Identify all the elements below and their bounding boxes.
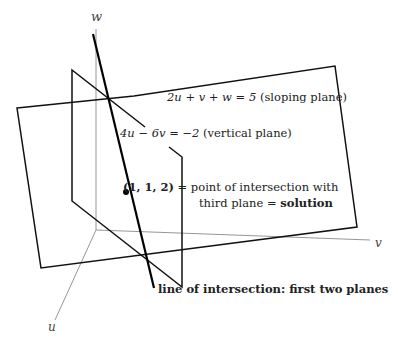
vertical-plane-description: (vertical plane) (203, 126, 292, 140)
solution-equals: = (178, 180, 188, 194)
solution-text-line2-prefix: third plane = (199, 196, 277, 210)
sloping-plane-description: (sloping plane) (260, 90, 347, 104)
vertical-plane-equation: 4u − 6v = −2 (120, 126, 199, 140)
w-axis-label: w (91, 10, 102, 23)
solution-label-line2: third plane = solution (199, 198, 333, 210)
intersection-line-label: line of intersection: first two planes (158, 284, 388, 296)
solution-text-line1: point of intersection with (191, 180, 338, 194)
v-axis-label: v (375, 237, 382, 249)
u-axis (55, 230, 96, 320)
sloping-plane-label: 2u + v + w = 5 (sloping plane) (167, 92, 347, 104)
sloping-plane-equation: 2u + v + w = 5 (167, 90, 256, 104)
u-axis-label: u (48, 321, 56, 333)
solution-text-line2-bold: solution (280, 196, 333, 210)
vertical-plane-label: 4u − 6v = −2 (vertical plane) (120, 128, 292, 140)
v-axis (96, 230, 370, 240)
solution-coords: (1, 1, 2) (123, 180, 174, 194)
solution-label-line1: (1, 1, 2) = point of intersection with (123, 182, 338, 194)
intersection-line (93, 34, 154, 288)
